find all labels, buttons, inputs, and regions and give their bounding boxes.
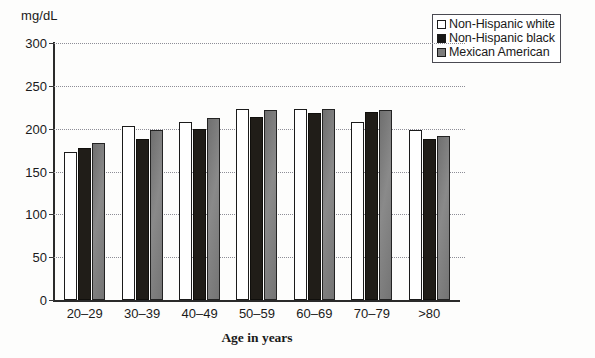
y-tick-mark [49, 257, 54, 258]
y-tick-label: 100 [25, 207, 47, 222]
legend-label: Mexican American [449, 46, 550, 59]
bar-group: 70–79 [343, 43, 400, 300]
x-tick-label: 60–69 [296, 306, 332, 321]
bar [250, 117, 263, 300]
bar-group: 50–59 [228, 43, 285, 300]
bar [179, 122, 192, 300]
y-tick-label: 0 [40, 293, 47, 308]
x-tick-label: 30–39 [124, 306, 160, 321]
bar [409, 130, 422, 300]
bar-groups: 20–2930–3940–4950–5960–6970–79>80 [56, 43, 458, 300]
bar [78, 148, 91, 300]
bar [437, 136, 450, 300]
x-tick-label: 70–79 [354, 306, 390, 321]
x-tick-label: >80 [418, 306, 440, 321]
bar [193, 129, 206, 300]
bar [423, 139, 436, 300]
white-square-icon [437, 20, 446, 29]
y-axis-unit-label: mg/dL [21, 8, 58, 23]
y-tick-label: 50 [33, 250, 47, 265]
bar [264, 110, 277, 300]
y-tick-label: 250 [25, 78, 47, 93]
y-tick-mark [49, 43, 54, 44]
chart-page: mg/dL Non-Hispanic white Non-Hispanic bl… [0, 0, 595, 358]
x-axis-title: Age in years [56, 330, 458, 346]
y-tick-mark [49, 214, 54, 215]
bar [308, 113, 321, 300]
legend-label: Non-Hispanic white [449, 18, 555, 31]
bar-group: 40–49 [171, 43, 228, 300]
bar [136, 139, 149, 300]
y-tick-label: 150 [25, 164, 47, 179]
y-tick-mark [49, 86, 54, 87]
bar [351, 122, 364, 300]
bar [150, 130, 163, 300]
y-tick-mark [49, 172, 54, 173]
bar [322, 109, 335, 300]
x-tick-label: 40–49 [181, 306, 217, 321]
y-tick-mark [49, 300, 54, 301]
y-tick-mark [49, 129, 54, 130]
x-tick-label: 20–29 [67, 306, 103, 321]
bar-group: 30–39 [113, 43, 170, 300]
bar-group: 20–29 [56, 43, 113, 300]
bar [207, 118, 220, 300]
plot-area: 050100150200250300 20–2930–3940–4950–596… [56, 43, 458, 300]
x-axis-line [53, 300, 460, 302]
legend-item-non-hispanic-white: Non-Hispanic white [437, 17, 555, 31]
x-tick-label: 50–59 [239, 306, 275, 321]
bar [379, 110, 392, 300]
bar [92, 143, 105, 300]
bar [294, 109, 307, 300]
y-tick-label: 200 [25, 121, 47, 136]
bar [122, 126, 135, 300]
bar-group: >80 [401, 43, 458, 300]
black-square-icon [437, 34, 446, 43]
bar [64, 152, 77, 300]
bar-group: 60–69 [286, 43, 343, 300]
y-tick-label: 300 [25, 36, 47, 51]
bar [236, 109, 249, 300]
bar [365, 112, 378, 300]
